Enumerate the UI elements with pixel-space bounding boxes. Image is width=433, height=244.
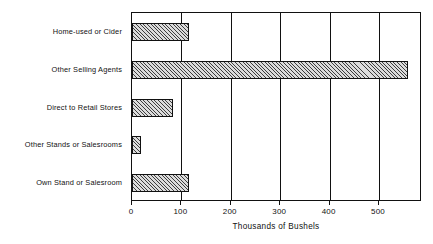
category-axis-labels: Home-used or CiderOther Selling AgentsDi… [0,0,128,244]
x-tick-label: 200 [223,207,237,216]
x-tick-label: 400 [322,207,336,216]
x-tick-mark [279,201,280,205]
category-label: Other Selling Agents [52,64,122,73]
x-tick-label: 0 [129,207,134,216]
category-label: Home-used or Cider [53,26,122,35]
bar [132,99,173,117]
x-tick-label: 300 [272,207,286,216]
bar [132,23,189,41]
gridline [330,13,331,200]
x-tick-mark [329,201,330,205]
category-label: Own Stand or Salesroom [36,178,122,187]
gridline [379,13,380,200]
gridline [280,13,281,200]
category-label: Other Stands or Salesrooms [25,140,122,149]
x-tick-label: 100 [173,207,187,216]
x-axis-title: Thousands of Bushels [131,222,421,231]
x-tick-mark [378,201,379,205]
x-tick-mark [180,201,181,205]
x-tick-label: 500 [371,207,385,216]
gridline [231,13,232,200]
x-tick-mark [131,201,132,205]
bar-chart: Home-used or CiderOther Selling AgentsDi… [0,0,433,244]
x-axis: 0100200300400500 Thousands of Bushels [131,201,421,241]
bar [132,174,189,192]
gridline [181,13,182,200]
category-label: Direct to Retail Stores [47,102,122,111]
bar [132,61,408,79]
plot-area [131,12,421,201]
x-tick-mark [230,201,231,205]
bar [132,136,141,154]
